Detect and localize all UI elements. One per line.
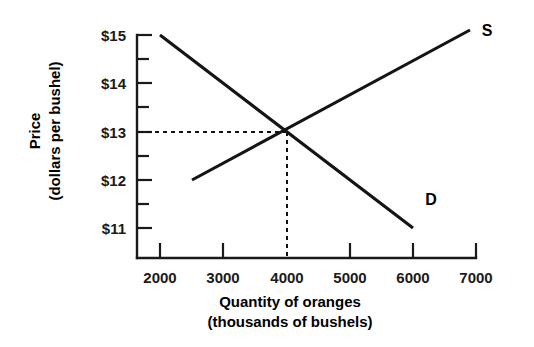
y-axis-title-line1: Price: [26, 113, 43, 150]
y-tick-label-11: $11: [102, 220, 126, 237]
x-tick-label-6000: 6000: [396, 269, 429, 286]
y-axis-title-line2: (dollars per bushel): [46, 61, 63, 200]
x-axis-ticks: [160, 243, 476, 258]
x-axis-title-line2: (thousands of bushels): [208, 313, 373, 330]
y-tick-label-15: $15: [101, 27, 126, 44]
supply-curve: [192, 30, 470, 180]
x-tick-label-4000: 4000: [270, 269, 303, 286]
chart-canvas: $15 $14 $13 $12 $11 2000 3000 4000 5000 …: [0, 0, 534, 347]
supply-curve-label: S: [482, 22, 493, 39]
y-tick-label-14: $14: [101, 75, 127, 92]
y-tick-label-12: $12: [101, 172, 126, 189]
x-tick-label-5000: 5000: [333, 269, 366, 286]
supply-demand-chart: $15 $14 $13 $12 $11 2000 3000 4000 5000 …: [0, 0, 534, 347]
y-tick-label-13: $13: [101, 124, 126, 141]
x-tick-label-2000: 2000: [143, 269, 176, 286]
x-axis-title-line1: Quantity of oranges: [219, 293, 361, 310]
demand-curve-label: D: [425, 191, 437, 208]
x-tick-label-7000: 7000: [459, 269, 492, 286]
x-tick-label-3000: 3000: [206, 269, 239, 286]
